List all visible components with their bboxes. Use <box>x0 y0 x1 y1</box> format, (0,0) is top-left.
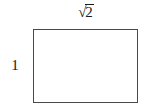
square-root-expression: √2 <box>78 4 94 20</box>
height-dimension-label: 1 <box>4 58 26 73</box>
radicand-value: 2 <box>85 4 94 20</box>
figure-canvas: √2 1 <box>0 0 147 112</box>
width-dimension-label: √2 <box>33 4 139 20</box>
rectangle-shape <box>33 29 138 103</box>
